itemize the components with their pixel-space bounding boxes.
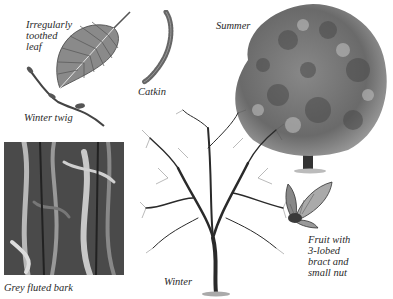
fruit-illustration bbox=[270, 180, 336, 230]
leaf-label: Irregularly toothed leaf bbox=[26, 19, 72, 52]
bark-label: Grey fluted bark bbox=[4, 282, 73, 293]
catkin-label: Catkin bbox=[138, 86, 166, 97]
illustration-plate: Irregularly toothed leaf Catkin Winter t… bbox=[0, 0, 393, 299]
fruit-label: Fruit with 3-lobed bract and small nut bbox=[308, 234, 350, 278]
summer-label: Summer bbox=[216, 20, 250, 31]
bark-illustration bbox=[4, 142, 124, 275]
catkin-illustration bbox=[140, 10, 180, 85]
winter-twig-label: Winter twig bbox=[24, 112, 73, 123]
winter-tree-illustration bbox=[138, 108, 288, 298]
winter-label: Winter bbox=[164, 276, 192, 287]
